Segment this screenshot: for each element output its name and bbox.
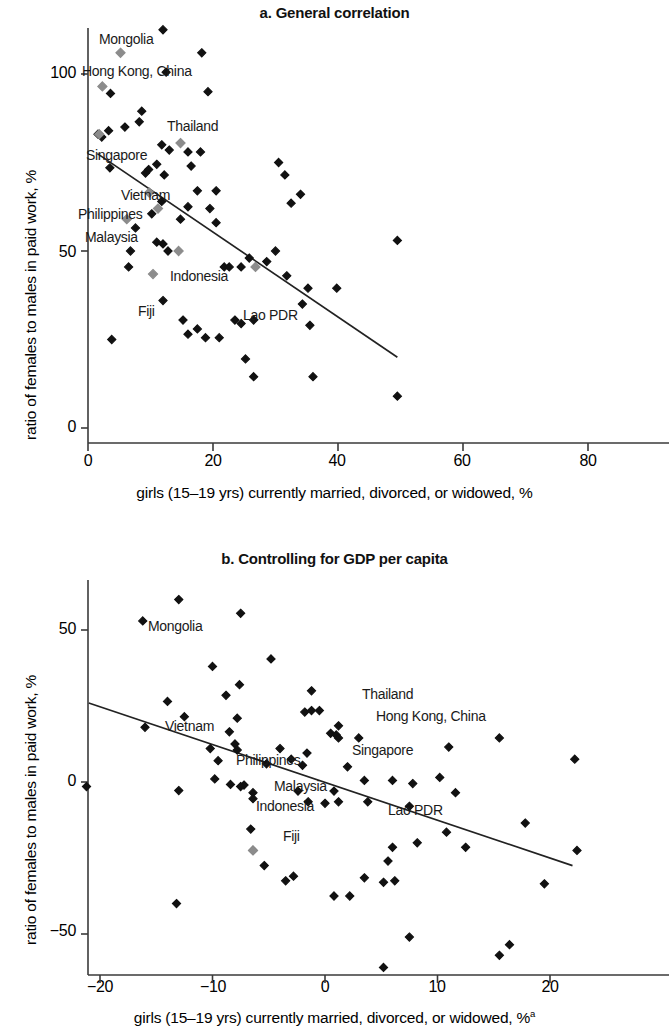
- panel-b-controlling-gdp: b. Controlling for GDP per capita ratio …: [0, 540, 669, 1034]
- data-point: [222, 691, 230, 699]
- data-point: [211, 775, 219, 783]
- data-point: [206, 204, 214, 212]
- data-point: [298, 300, 306, 308]
- data-point: [159, 26, 167, 34]
- data-point: [187, 162, 195, 170]
- data-point: [275, 158, 283, 166]
- data-point: [283, 272, 291, 280]
- data-point: [153, 160, 161, 168]
- data-point-highlighted: [248, 846, 257, 855]
- data-point: [135, 118, 143, 126]
- data-point: [360, 776, 368, 784]
- point-label-vietnam-a: Vietnam: [121, 187, 170, 203]
- data-point: [445, 743, 453, 751]
- data-point: [163, 697, 171, 705]
- data-point: [393, 236, 401, 244]
- panel-a-general-correlation: a. General correlation ratio of females …: [0, 0, 669, 540]
- data-point-highlighted: [174, 246, 183, 255]
- point-label-thailand-a: Thailand: [167, 118, 218, 134]
- data-point: [184, 148, 192, 156]
- trendline: [89, 703, 573, 866]
- point-label-hong-kong-china-b: Hong Kong, China: [376, 708, 486, 724]
- data-point: [388, 776, 396, 784]
- data-point: [315, 706, 323, 714]
- data-point: [184, 330, 192, 338]
- point-label-indonesia-a: Indonesia: [170, 268, 228, 284]
- data-point: [282, 877, 290, 885]
- point-label-thailand-b: Thailand: [362, 686, 413, 702]
- data-point: [179, 316, 187, 324]
- data-point: [413, 839, 421, 847]
- panel-a-x-axis-label: girls (15–19 yrs) currently married, div…: [0, 484, 669, 502]
- data-point: [571, 755, 579, 763]
- data-point: [247, 825, 255, 833]
- data-point: [260, 862, 268, 870]
- data-point: [271, 247, 279, 255]
- data-point: [289, 872, 297, 880]
- data-point: [212, 187, 220, 195]
- panel-b-x-axis-label-text: girls (15–19 yrs) currently married, div…: [134, 1009, 530, 1026]
- point-label-vietnam-b: Vietnam: [165, 718, 214, 734]
- point-label-philippines-b: Philippines: [236, 752, 300, 768]
- data-point: [346, 892, 354, 900]
- point-label-lao-pdr-b: Lao PDR: [388, 802, 443, 818]
- data-point: [379, 963, 387, 971]
- point-label-fiji-a: Fiji: [138, 303, 155, 319]
- data-point: [267, 655, 275, 663]
- data-point: [307, 706, 315, 714]
- data-point: [495, 951, 503, 959]
- data-point: [193, 187, 201, 195]
- data-point-highlighted: [98, 82, 107, 91]
- data-point: [175, 786, 183, 794]
- data-point: [521, 819, 529, 827]
- data-point: [495, 734, 503, 742]
- point-label-mongolia-b: Mongolia: [148, 618, 202, 634]
- data-point: [160, 171, 168, 179]
- data-point: [364, 798, 372, 806]
- data-point: [343, 763, 351, 771]
- panel-a-x-axis-label-text: girls (15–19 yrs) currently married, div…: [136, 484, 532, 501]
- data-point: [334, 722, 342, 730]
- data-point: [409, 779, 417, 787]
- point-label-hong-kong-china-a: Hong Kong, China: [82, 63, 192, 79]
- data-point: [125, 263, 133, 271]
- data-point: [388, 843, 396, 851]
- data-point: [159, 296, 167, 304]
- data-point: [126, 247, 134, 255]
- data-point: [139, 617, 147, 625]
- data-point: [201, 334, 209, 342]
- data-point: [250, 373, 258, 381]
- data-point: [263, 258, 271, 266]
- data-point: [304, 284, 312, 292]
- data-point: [355, 734, 363, 742]
- data-point: [303, 749, 311, 757]
- data-point: [212, 219, 220, 227]
- data-point: [309, 373, 317, 381]
- point-label-lao-pdr-a: Lao PDR: [243, 307, 298, 323]
- data-point: [442, 828, 450, 836]
- data-point: [208, 662, 216, 670]
- data-point: [306, 321, 314, 329]
- data-point: [214, 757, 222, 765]
- data-point: [505, 941, 513, 949]
- data-point: [198, 49, 206, 57]
- data-point: [233, 714, 241, 722]
- data-point: [287, 199, 295, 207]
- point-label-malaysia-b: Malaysia: [274, 778, 327, 794]
- point-label-singapore-b: Singapore: [352, 742, 413, 758]
- data-point: [225, 728, 233, 736]
- data-point: [330, 787, 338, 795]
- data-point: [148, 210, 156, 218]
- data-point: [540, 880, 548, 888]
- data-point: [393, 392, 401, 400]
- data-point: [405, 933, 413, 941]
- data-point: [384, 857, 392, 865]
- data-point: [462, 843, 470, 851]
- data-point: [451, 789, 459, 797]
- data-point: [226, 780, 234, 788]
- data-point: [436, 773, 444, 781]
- data-point: [164, 247, 172, 255]
- data-point: [165, 146, 173, 154]
- data-point: [360, 874, 368, 882]
- data-point: [196, 148, 204, 156]
